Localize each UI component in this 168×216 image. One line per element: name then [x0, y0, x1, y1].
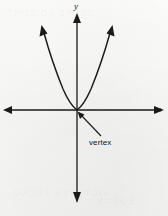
y-axis-label: y	[74, 2, 78, 11]
x-axis-label: x	[157, 105, 161, 114]
parabola-arrowhead-right	[107, 25, 115, 37]
coordinate-plane-figure	[0, 0, 168, 216]
vertex-pointer-arrow	[78, 112, 102, 137]
vertex-annotation-label: vertex	[89, 138, 111, 147]
x-axis	[3, 106, 164, 114]
figure-page: SCLRE ADISORT VICTURES SECNO EDSON y x	[0, 0, 168, 216]
parabola-arrowhead-left	[40, 25, 48, 37]
x-axis-arrowhead-left	[3, 106, 12, 114]
vertex-pointer-line	[81, 115, 101, 136]
y-axis-arrowhead-top	[73, 13, 81, 23]
y-axis-arrowhead-bottom	[73, 192, 81, 203]
